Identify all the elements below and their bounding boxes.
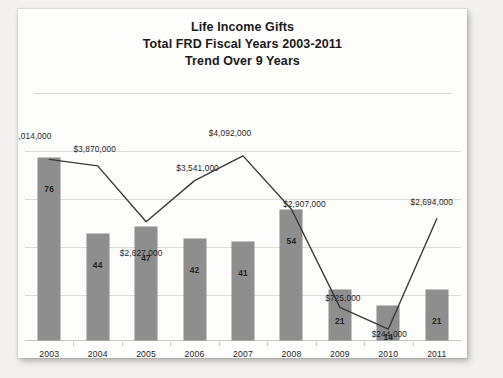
x-tickmark xyxy=(413,342,414,346)
x-tick-2008: 2008 xyxy=(267,349,315,358)
x-tick-2006: 2006 xyxy=(171,349,219,358)
title-line-2: Total FRD Fiscal Years 2003-2011 xyxy=(18,36,467,53)
x-tickmark xyxy=(316,342,317,346)
x-tickmark xyxy=(73,342,74,346)
trend-line xyxy=(25,134,461,342)
x-tick-2010: 2010 xyxy=(364,349,412,358)
x-tick-2003: 2003 xyxy=(25,349,73,358)
title-line-1: Life Income Gifts xyxy=(18,19,467,36)
x-tick-2011: 2011 xyxy=(413,349,461,358)
plot-area: 764447424154211421 $4,014,000$3,870,000$… xyxy=(25,134,461,342)
x-tickmark xyxy=(122,342,123,346)
x-tickmark xyxy=(267,342,268,346)
title-line-3: Trend Over 9 Years xyxy=(18,53,467,70)
chart-title: Life Income Gifts Total FRD Fiscal Years… xyxy=(18,19,467,70)
x-tick-2007: 2007 xyxy=(219,349,267,358)
x-tick-2004: 2004 xyxy=(74,349,122,358)
x-axis: 200320042005200620072008200920102011 xyxy=(25,346,461,358)
title-divider xyxy=(34,93,452,94)
x-tick-2005: 2005 xyxy=(122,349,170,358)
chart-card: Life Income Gifts Total FRD Fiscal Years… xyxy=(18,9,467,358)
x-tickmark xyxy=(219,342,220,346)
x-tickmark xyxy=(364,342,365,346)
x-tick-2009: 2009 xyxy=(316,349,364,358)
x-tickmark xyxy=(170,342,171,346)
